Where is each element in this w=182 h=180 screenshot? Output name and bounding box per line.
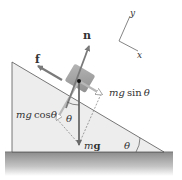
friction-arrow [38,66,62,80]
incline-angle-label: θ [124,140,130,151]
mg-sin-label: mgsinθ [109,87,150,98]
normal-label: n [83,29,91,42]
center-of-mass-dot [77,79,81,83]
friction-label: f [35,53,41,66]
ground [5,152,173,176]
x-axis-label: x [137,50,142,60]
axes-indicator [119,16,138,51]
gravity-angle-label: θ [66,113,72,124]
y-axis-label: y [129,8,136,18]
incline-diagram: θ θ n f mgsinθ mgcosθ mg y x [0,0,182,180]
mg-cos-label: mgcosθ [16,109,57,120]
gravity-label: mg [84,140,100,151]
